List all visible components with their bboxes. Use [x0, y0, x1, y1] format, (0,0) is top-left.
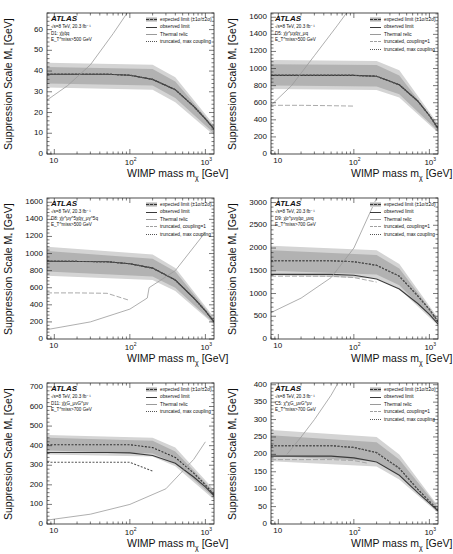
y-tick-label: 0	[17, 519, 43, 528]
band-1sigma	[271, 64, 438, 131]
legend-entry: observed limit	[370, 23, 436, 30]
info-line: √s=8 TeV, 20.3 fb⁻¹	[275, 209, 316, 216]
y-tick-label: 800	[241, 81, 267, 90]
y-axis-label: Suppression Scale M* [GeV]	[226, 388, 240, 520]
y-tick-label: 400	[17, 300, 43, 309]
legend-entry: truncated, max coupling	[370, 231, 436, 238]
y-tick-label: 1400	[17, 214, 43, 223]
y-tick-label: 200	[241, 132, 267, 141]
legend-label: Thermal relic	[384, 401, 412, 408]
legend-entry: expected limit (±1σ/±2σ)	[146, 386, 212, 393]
band-1sigma	[271, 250, 438, 324]
legend-label: truncated, max coupling	[160, 231, 211, 238]
series-truncated-coupling-1	[47, 293, 130, 301]
x-tick-label: 10	[49, 341, 58, 350]
x-tick-label: 10	[273, 156, 282, 165]
y-tick-label: 20	[17, 108, 43, 117]
legend-label: expected limit (±1σ/±2σ)	[384, 386, 436, 393]
legend-entry: expected limit (±1σ/±2σ)	[146, 201, 212, 208]
band-1sigma	[47, 438, 214, 498]
legend-swatch-icon	[146, 232, 157, 237]
y-tick-label: 600	[17, 402, 43, 411]
legend-swatch-icon	[146, 32, 157, 37]
x-tick-label: 103	[200, 526, 212, 537]
run-info: √s=8 TeV, 20.3 fb⁻¹D1: χ̄χq̄qE_T^miss>50…	[51, 24, 92, 44]
x-axis-label: WIMP mass mχ [GeV]	[127, 167, 229, 181]
legend-label: expected limit (±1σ/±2σ)	[384, 201, 436, 208]
x-tick-label: 102	[125, 526, 137, 537]
y-tick-label: 50	[17, 45, 43, 54]
x-axis-label: WIMP mass mχ [GeV]	[351, 167, 453, 181]
legend-swatch-icon	[370, 32, 381, 37]
legend: expected limit (±1σ/±2σ)observed limitTh…	[146, 386, 212, 416]
legend-swatch-icon	[370, 387, 381, 392]
series-truncated-coupling-1	[271, 105, 354, 106]
y-tick-label: 300	[17, 460, 43, 469]
legend-entry: expected limit (±1σ/±2σ)	[370, 386, 436, 393]
chart-panel-d11: 010020030040050060070010102103WIMP mass …	[0, 370, 224, 554]
x-tick-label: 102	[349, 156, 361, 167]
legend-label: expected limit (±1σ/±2σ)	[160, 16, 212, 23]
legend-swatch-icon	[370, 217, 381, 222]
y-tick-label: 1000	[241, 289, 267, 298]
y-axis-label: Suppression Scale M* [GeV]	[2, 388, 16, 520]
legend: expected limit (±1σ/±2σ)observed limitTh…	[146, 201, 212, 238]
legend-entry: Thermal relic	[146, 31, 212, 38]
y-tick-label: 2000	[241, 243, 267, 252]
y-axis-label: Suppression Scale M* [GeV]	[2, 203, 16, 335]
legend-swatch-icon	[370, 202, 381, 207]
x-tick-label: 103	[424, 156, 436, 167]
y-tick-label: 300	[241, 415, 267, 424]
legend-label: observed limit	[160, 208, 190, 215]
legend-swatch-icon	[370, 47, 381, 52]
y-tick-label: 200	[17, 480, 43, 489]
info-line: √s=8 TeV, 20.3 fb⁻¹	[275, 394, 316, 401]
legend: expected limit (±1σ/±2σ)observed limitTh…	[370, 16, 436, 53]
info-line: √s=8 TeV, 20.3 fb⁻¹	[275, 24, 316, 31]
y-tick-label: 400	[17, 441, 43, 450]
run-info: √s=8 TeV, 20.3 fb⁻¹D5: χ̄γ^μχq̄γ_μqE_T^m…	[275, 24, 316, 44]
legend-label: truncated, max coupling	[384, 416, 435, 423]
y-tick-label: 700	[17, 382, 43, 391]
atlas-label: ATLAS	[51, 14, 77, 23]
info-line: E_T^miss>700 GeV	[275, 407, 316, 414]
y-tick-label: 10	[17, 128, 43, 137]
legend-swatch-icon	[146, 210, 157, 215]
y-tick-label: 500	[241, 311, 267, 320]
legend-entry: expected limit (±1σ/±2σ)	[370, 201, 436, 208]
atlas-label: ATLAS	[275, 14, 301, 23]
legend-label: Thermal relic	[160, 401, 188, 408]
legend-swatch-icon	[370, 232, 381, 237]
x-tick-label: 10	[49, 156, 58, 165]
legend-swatch-icon	[146, 395, 157, 400]
legend-entry: Thermal relic	[370, 216, 436, 223]
y-tick-label: 200	[241, 449, 267, 458]
legend-label: truncated, coupling=1	[384, 223, 430, 230]
legend-label: truncated, coupling=1	[384, 408, 430, 415]
legend-entry: observed limit	[370, 393, 436, 400]
y-axis-label: Suppression Scale M* [GeV]	[226, 18, 240, 150]
x-tick-label: 103	[424, 341, 436, 352]
legend-swatch-icon	[146, 17, 157, 22]
legend: expected limit (±1σ/±2σ)observed limitTh…	[146, 16, 212, 46]
legend-entry: observed limit	[146, 23, 212, 30]
x-tick-label: 102	[349, 526, 361, 537]
y-tick-label: 400	[241, 115, 267, 124]
y-tick-label: 0	[17, 149, 43, 158]
y-tick-label: 1200	[241, 46, 267, 55]
legend-label: truncated, coupling=1	[384, 38, 430, 45]
legend-swatch-icon	[370, 224, 381, 229]
legend-label: observed limit	[384, 23, 414, 30]
legend-entry: Thermal relic	[370, 401, 436, 408]
legend-entry: truncated, coupling=1	[370, 223, 436, 230]
legend-entry: expected limit (±1σ/±2σ)	[370, 16, 436, 23]
y-tick-label: 1200	[17, 231, 43, 240]
y-tick-label: 1600	[241, 12, 267, 21]
legend-entry: truncated, max coupling	[370, 46, 436, 53]
run-info: √s=8 TeV, 20.3 fb⁻¹D9: χ̄σ^μνχq̄σ_μνqE_T…	[275, 209, 316, 229]
legend-swatch-icon	[370, 39, 381, 44]
x-tick-label: 10	[49, 526, 58, 535]
y-tick-label: 100	[17, 499, 43, 508]
legend-swatch-icon	[370, 17, 381, 22]
y-tick-label: 100	[241, 484, 267, 493]
